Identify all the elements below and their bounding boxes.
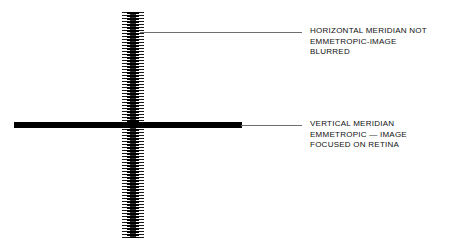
callout-line: FOCUSED ON RETINA [310, 140, 407, 151]
callout-vertical-meridian: VERTICAL MERIDIAN EMMETROPIC — IMAGE FOC… [310, 119, 407, 151]
horizontal-meridian-sharp-bar [14, 122, 242, 128]
leader-line-bottom [241, 125, 302, 126]
leader-line-top [140, 32, 302, 33]
meridian-diagram: HORIZONTAL MERIDIAN NOT EMMETROPIC-IMAGE… [0, 0, 451, 247]
callout-line: EMMETROPIC — IMAGE [310, 130, 407, 141]
callout-line: HORIZONTAL MERIDIAN NOT [310, 26, 427, 37]
callout-horizontal-meridian: HORIZONTAL MERIDIAN NOT EMMETROPIC-IMAGE… [310, 26, 427, 58]
callout-line: EMMETROPIC-IMAGE [310, 37, 427, 48]
callout-line: VERTICAL MERIDIAN [310, 119, 407, 130]
callout-line: BLURRED [310, 47, 427, 58]
